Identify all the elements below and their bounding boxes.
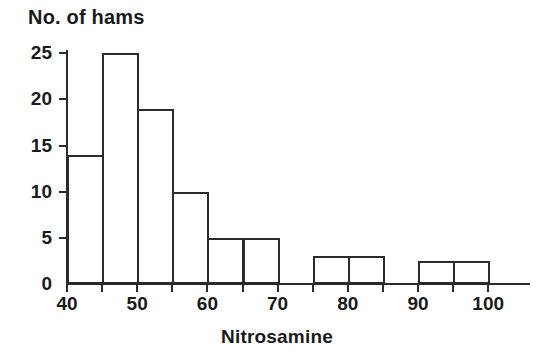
histogram-bar bbox=[137, 109, 174, 284]
y-axis-tick-label: 0 bbox=[8, 274, 52, 293]
histogram-bar bbox=[102, 53, 139, 284]
histogram-bar bbox=[207, 238, 244, 284]
x-axis-label: Nitrosamine bbox=[0, 326, 554, 348]
x-axis-tick bbox=[452, 284, 454, 292]
y-axis-tick-label: 5 bbox=[8, 228, 52, 247]
x-axis-tick bbox=[171, 284, 173, 292]
y-axis-tick bbox=[59, 145, 66, 147]
y-axis-tick bbox=[59, 237, 66, 239]
x-axis-tick-label: 40 bbox=[37, 294, 97, 313]
histogram-bar bbox=[348, 256, 385, 284]
histogram-bar bbox=[418, 261, 455, 284]
histogram-bar bbox=[172, 192, 209, 284]
x-axis-tick bbox=[206, 284, 208, 292]
x-axis-tick bbox=[487, 284, 489, 292]
y-axis-tick-label: 20 bbox=[8, 89, 52, 108]
x-axis-tick-label: 70 bbox=[248, 294, 308, 313]
page-title: No. of hams bbox=[28, 6, 145, 29]
x-axis-tick-label: 50 bbox=[107, 294, 167, 313]
x-axis-tick-label: 100 bbox=[458, 294, 518, 313]
x-axis-tick bbox=[347, 284, 349, 292]
y-axis-tick bbox=[59, 191, 66, 193]
x-axis-tick-label: 80 bbox=[318, 294, 378, 313]
x-axis-tick bbox=[242, 284, 244, 292]
x-axis-tick bbox=[136, 284, 138, 292]
x-axis-tick-label: 60 bbox=[177, 294, 237, 313]
histogram-bar bbox=[453, 261, 490, 284]
histogram-bar bbox=[313, 256, 350, 284]
y-axis-tick bbox=[59, 98, 66, 100]
y-axis-tick bbox=[59, 52, 66, 54]
x-axis-tick-label: 90 bbox=[388, 294, 448, 313]
x-axis-tick bbox=[101, 284, 103, 292]
y-axis-tick-label: 15 bbox=[8, 136, 52, 155]
histogram-figure: No. of hams 0510152025405060708090100 Ni… bbox=[0, 0, 554, 358]
y-axis-tick-label: 25 bbox=[8, 43, 52, 62]
x-axis-tick bbox=[382, 284, 384, 292]
x-axis-tick bbox=[417, 284, 419, 292]
x-axis-tick bbox=[66, 284, 68, 292]
y-axis-tick-label: 10 bbox=[8, 182, 52, 201]
x-axis-tick bbox=[312, 284, 314, 292]
histogram-bar bbox=[67, 155, 104, 284]
x-axis-tick bbox=[277, 284, 279, 292]
histogram-bar bbox=[243, 238, 280, 284]
